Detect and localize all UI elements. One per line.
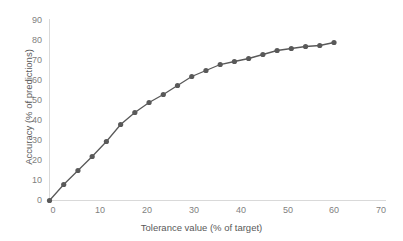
data-point [118, 122, 123, 127]
data-series-accuracy [47, 40, 337, 203]
data-point [104, 139, 109, 144]
data-point [175, 83, 180, 88]
accuracy-vs-tolerance-chart: 90 80 70 60 50 40 30 20 10 0 0 10 20 30 … [0, 0, 403, 241]
data-point [90, 154, 95, 159]
data-point [289, 46, 294, 51]
data-point [218, 62, 223, 67]
data-point [161, 92, 166, 97]
data-point [246, 56, 251, 61]
data-point [189, 74, 194, 79]
data-point [275, 48, 280, 53]
x-tick-label-70: 70 [369, 205, 393, 215]
x-tick-label-10: 10 [88, 205, 112, 215]
x-tick-label-20: 20 [135, 205, 159, 215]
data-point [146, 100, 151, 105]
y-axis-title-wrapper: Accuracy (% of predictions) [23, 7, 37, 207]
data-point [203, 68, 208, 73]
data-point [260, 52, 265, 57]
data-point [232, 59, 237, 64]
data-point [75, 168, 80, 173]
data-point [132, 110, 137, 115]
axis-lines [50, 19, 387, 201]
y-axis-title: Accuracy (% of predictions) [23, 7, 34, 207]
x-tick-label-0: 0 [41, 205, 65, 215]
x-tick-label-60: 60 [322, 205, 346, 215]
data-point [61, 182, 66, 187]
x-tick-label-50: 50 [276, 205, 300, 215]
x-tick-label-30: 30 [182, 205, 206, 215]
data-point [303, 44, 308, 49]
data-point [317, 43, 322, 48]
data-point [331, 40, 336, 45]
data-point [47, 198, 52, 203]
x-tick-label-40: 40 [229, 205, 253, 215]
x-axis-title: Tolerance value (% of target) [0, 222, 403, 233]
series-line [50, 43, 335, 201]
